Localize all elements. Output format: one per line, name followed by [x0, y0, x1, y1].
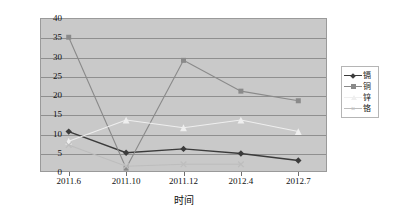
- legend-marker-cross-icon: ×: [351, 106, 356, 111]
- x-axis-tick-label: 2011.12: [169, 176, 198, 186]
- x-axis-tick-mark: [298, 172, 299, 176]
- legend-item-锌[interactable]: 锌: [344, 92, 376, 103]
- legend-swatch-triangle-icon: [344, 92, 362, 103]
- data-point-diamond: [123, 150, 129, 156]
- series-line: [69, 145, 241, 166]
- data-point-square: [66, 35, 71, 40]
- x-axis-tick-mark: [69, 172, 70, 176]
- chart-figure: 0510152025303540 2011.62011.102011.12201…: [0, 0, 395, 219]
- data-point-diamond: [66, 128, 72, 134]
- legend-swatch-square-icon: [344, 81, 362, 92]
- x-axis-tick-label: 2012.4: [229, 176, 254, 186]
- legend-swatch-diamond-icon: [344, 70, 362, 81]
- series-镉: [66, 128, 302, 163]
- legend: 镉铜锌×铬: [341, 66, 379, 118]
- x-axis-tick-label: 2011.10: [112, 176, 141, 186]
- x-axis-title: 时间: [0, 192, 367, 207]
- data-point-square: [181, 58, 186, 63]
- data-series-layer: [40, 18, 327, 172]
- data-point-square: [238, 89, 243, 94]
- data-point-diamond: [238, 150, 244, 156]
- data-point-diamond: [180, 146, 186, 152]
- data-point-square: [296, 98, 301, 103]
- x-axis-tick-label: 2011.6: [56, 176, 80, 186]
- data-point-diamond: [295, 157, 301, 163]
- x-axis-tick-mark: [184, 172, 185, 176]
- x-axis-tick-mark: [241, 172, 242, 176]
- legend-label: 铬: [362, 103, 371, 114]
- legend-label: 镉: [362, 70, 371, 81]
- legend-label: 铜: [362, 81, 371, 92]
- legend-item-铬[interactable]: ×铬: [344, 103, 376, 114]
- x-axis-tick-mark: [126, 172, 127, 176]
- legend-item-镉[interactable]: 镉: [344, 70, 376, 81]
- legend-item-铜[interactable]: 铜: [344, 81, 376, 92]
- legend-marker-square-icon: [351, 84, 356, 89]
- series-铬: [66, 142, 244, 169]
- data-point-triangle: [65, 138, 72, 145]
- legend-label: 锌: [362, 92, 371, 103]
- series-锌: [65, 117, 301, 145]
- legend-swatch-cross-icon: ×: [344, 103, 362, 114]
- x-axis-tick-label: 2012.7: [286, 176, 311, 186]
- legend-marker-triangle-icon: [351, 95, 357, 100]
